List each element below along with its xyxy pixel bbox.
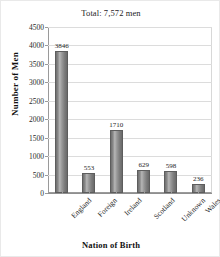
bar-value-label: 3846 — [55, 42, 69, 50]
x-tick-label-foreign: Foreign — [96, 196, 119, 219]
x-tick-mark — [89, 190, 90, 194]
y-tick-label: 2500 — [29, 96, 44, 105]
bar-slot: 598 — [157, 27, 184, 193]
y-tick-label: 1500 — [29, 133, 44, 142]
x-tick-mark — [62, 190, 63, 194]
x-axis-tick-labels: EnglandForeignIrelandScotlandUnknownWale… — [48, 194, 212, 238]
bar-series: 38465531710629598236 — [48, 27, 212, 193]
y-tick-label: 4500 — [29, 23, 44, 32]
bar-england[interactable]: 3846 — [55, 51, 68, 193]
x-tick-mark — [171, 190, 172, 194]
x-axis-title: Nation of Birth — [1, 240, 220, 250]
bar-value-label: 1710 — [109, 121, 123, 129]
x-tick-label-scotland: Scotland — [151, 196, 176, 221]
bar-slot: 629 — [130, 27, 157, 193]
bar-slot: 3846 — [48, 27, 75, 193]
x-tick-mark — [116, 190, 117, 194]
bar-value-label: 598 — [166, 162, 177, 170]
y-tick-label: 1000 — [29, 152, 44, 161]
x-tick-label-wales: Wales — [204, 196, 220, 215]
x-tick-label-ireland: Ireland — [123, 196, 144, 217]
y-tick-label: 4000 — [29, 41, 44, 50]
x-tick-label-unknown: Unknown — [180, 196, 207, 223]
x-tick-label-england: England — [69, 196, 93, 220]
x-tick-mark — [144, 190, 145, 194]
bar-value-label: 629 — [138, 161, 149, 169]
y-tick-label: 3500 — [29, 59, 44, 68]
chart-title: Total: 7,572 men — [1, 8, 220, 18]
bar-chart: Total: 7,572 men Number of Men 050010001… — [0, 0, 220, 257]
bar-value-label: 236 — [193, 175, 204, 183]
bar-value-label: 553 — [84, 164, 95, 172]
y-tick-label: 2000 — [29, 115, 44, 124]
x-tick-mark — [198, 190, 199, 194]
y-tick-label: 500 — [33, 170, 44, 179]
bar-ireland[interactable]: 1710 — [110, 130, 123, 193]
bar-slot: 1710 — [103, 27, 130, 193]
y-tick-label: 3000 — [29, 78, 44, 87]
bar-slot: 553 — [75, 27, 102, 193]
y-axis-title: Number of Men — [10, 34, 20, 134]
plot-area: 050010001500200025003000350040004500 384… — [48, 27, 212, 193]
y-tick-label: 0 — [40, 189, 44, 198]
bar-slot: 236 — [185, 27, 212, 193]
